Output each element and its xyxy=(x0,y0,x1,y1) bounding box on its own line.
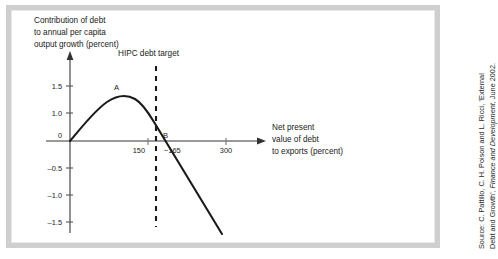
x-axis-label-line-2: value of debt xyxy=(272,135,320,144)
y-axis-arrowhead xyxy=(67,51,74,60)
y-axis-label-line-2: to annual per capita xyxy=(34,28,106,37)
y-tick-label-neg1.5: –1.5 xyxy=(48,218,62,227)
source-citation-line-1: Source: C. Pattillo, C. H. Poison and L.… xyxy=(477,5,488,249)
x-tick-label-300: 300 xyxy=(220,146,232,155)
debt-laffer-curve xyxy=(70,96,222,234)
chart-plot-area: Contribution of debt to annual per capit… xyxy=(6,5,440,248)
y-axis-label-line-1: Contribution of debt xyxy=(34,16,106,25)
x-axis-arrowhead xyxy=(257,137,266,144)
point-label-a: A xyxy=(114,83,120,92)
point-label-b: B xyxy=(163,131,168,140)
source-citation-line-2: Debt and Growth', Finance and Developmen… xyxy=(488,5,498,249)
x-axis-label-line-3: to exports (percent) xyxy=(272,147,343,156)
y-tick-label-neg0.5: –0.5 xyxy=(48,164,62,173)
x-tick-label-150: 150 xyxy=(133,146,145,155)
source-citation-text: Source: C. Pattillo, C. H. Poison and L.… xyxy=(477,5,498,249)
x-axis-label-line-1: Net present xyxy=(272,123,315,132)
y-tick-label-1.5: 1.5 xyxy=(52,82,62,91)
source-citation-date: June 2002. xyxy=(488,63,497,99)
y-axis-label-line-3: output growth (percent) xyxy=(34,40,119,49)
source-citation: Source: C. Pattillo, C. H. Poison and L.… xyxy=(443,0,487,259)
hipc-debt-target-label: HIPC debt target xyxy=(118,49,180,58)
y-tick-label-1.0: 1.0 xyxy=(52,109,62,118)
source-citation-journal: Finance and Development, xyxy=(488,101,497,188)
y-tick-label-neg1.0: –1.0 xyxy=(48,191,62,200)
y-tick-label-0: 0 xyxy=(58,131,62,140)
source-citation-title-plain: Debt and Growth', xyxy=(488,190,497,249)
